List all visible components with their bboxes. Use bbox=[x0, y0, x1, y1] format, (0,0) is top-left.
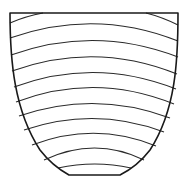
band-line bbox=[11, 40, 178, 57]
band-line bbox=[10, 13, 43, 23]
band-line bbox=[14, 72, 176, 89]
band-line bbox=[24, 118, 164, 132]
band-line bbox=[58, 164, 131, 168]
band-line bbox=[19, 103, 170, 118]
figure-canvas: Shield-shaped vessel outline with curved… bbox=[0, 0, 189, 189]
band-line bbox=[16, 87, 174, 104]
band-line bbox=[146, 13, 178, 25]
band-line bbox=[12, 57, 177, 74]
band-line bbox=[10, 24, 178, 41]
band-line bbox=[32, 133, 156, 146]
band-line bbox=[44, 148, 144, 160]
vessel-diagram bbox=[0, 0, 189, 189]
vessel-outline bbox=[10, 13, 178, 175]
